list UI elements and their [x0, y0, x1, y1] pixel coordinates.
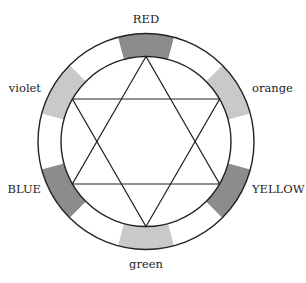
label-yellow: YELLOW [251, 182, 305, 196]
color-segments [42, 34, 251, 250]
inner-circle [61, 57, 231, 227]
label-green: green [129, 257, 163, 271]
label-violet: violet [8, 81, 42, 95]
label-orange: orange [252, 81, 293, 95]
label-blue: BLUE [7, 182, 41, 196]
upward-triangle [72, 57, 219, 185]
label-red: RED [133, 12, 159, 26]
downward-triangle [72, 99, 219, 227]
color-wheel-diagram: RED orange YELLOW green BLUE violet [0, 0, 306, 283]
